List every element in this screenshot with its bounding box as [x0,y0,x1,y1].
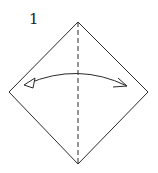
step-number: 1 [29,12,39,27]
diagram-canvas [0,0,158,173]
origami-diagram: 1 [0,0,158,173]
fold-and-unfold-arrow [24,73,127,88]
hollow-arrowhead-icon [24,78,35,88]
arrow-arc [27,73,127,86]
